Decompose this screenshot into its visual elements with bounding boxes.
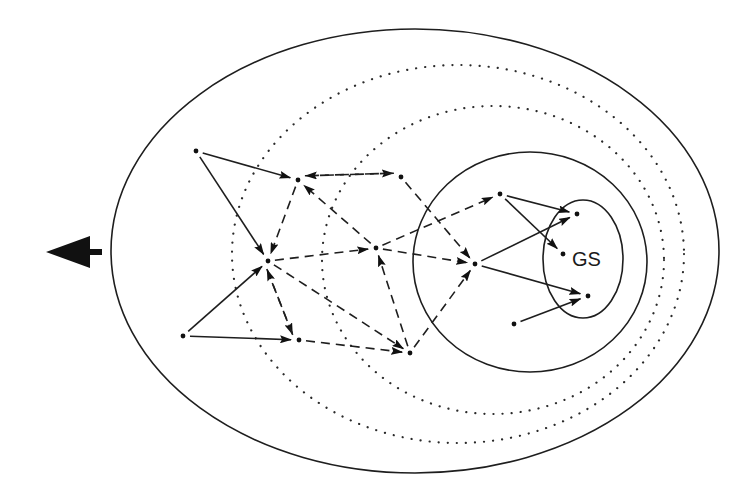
state-node-M bbox=[586, 294, 591, 299]
exit-arrow-icon bbox=[46, 236, 102, 268]
region-dotted-inner bbox=[322, 106, 664, 414]
state-node-I bbox=[498, 192, 503, 197]
state-node-G bbox=[297, 338, 302, 343]
state-node-L bbox=[561, 252, 566, 257]
state-node-H bbox=[408, 351, 413, 356]
goal-set-label: GS bbox=[572, 248, 601, 270]
edge-G-to-H bbox=[306, 341, 402, 352]
edge-C-to-E bbox=[275, 249, 368, 260]
state-node-F bbox=[181, 334, 186, 339]
region-middle bbox=[413, 152, 647, 372]
edge-E-to-J bbox=[383, 249, 467, 263]
edge-C-to-H bbox=[274, 265, 403, 349]
state-node-D bbox=[399, 175, 404, 180]
region-dotted-outer bbox=[232, 65, 684, 443]
state-node-C bbox=[266, 259, 271, 264]
state-node-J bbox=[473, 262, 478, 267]
edge-B-to-C bbox=[271, 187, 296, 254]
state-node-A bbox=[194, 149, 199, 154]
edge-H-to-E bbox=[379, 256, 408, 347]
state-node-B bbox=[296, 178, 301, 183]
edge-E-to-I bbox=[382, 197, 492, 245]
edge-J-to-K bbox=[481, 218, 570, 261]
state-node-K bbox=[575, 212, 580, 217]
state-nodes bbox=[181, 149, 591, 356]
edge-E-to-B bbox=[304, 185, 371, 243]
state-node-N bbox=[512, 322, 517, 327]
edge-N-to-M bbox=[521, 299, 581, 322]
state-space-diagram: GS bbox=[0, 0, 752, 498]
edge-A-to-C bbox=[200, 157, 264, 254]
edge-F-to-G bbox=[190, 336, 291, 340]
region-outer bbox=[111, 29, 719, 473]
edge-J-to-M bbox=[482, 266, 581, 294]
state-node-E bbox=[374, 246, 379, 251]
edge-A-to-B bbox=[203, 153, 291, 178]
region-ellipses bbox=[111, 29, 719, 473]
edge-F-to-C bbox=[188, 266, 262, 331]
